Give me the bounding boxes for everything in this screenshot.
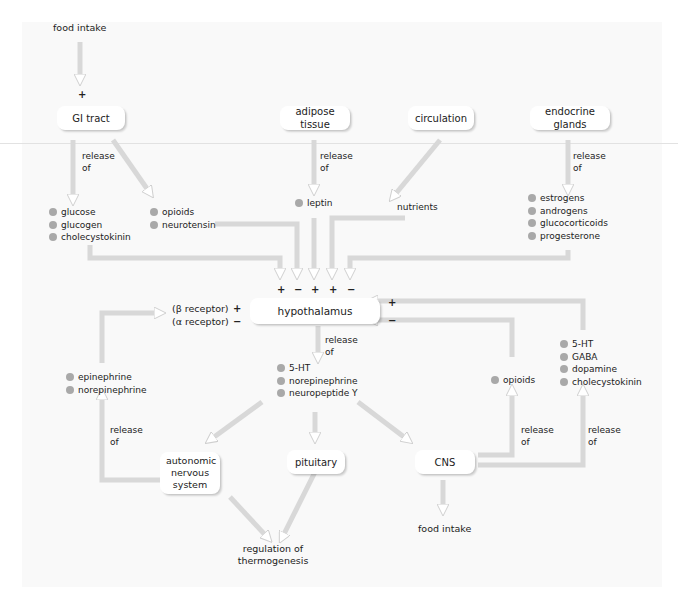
- bullet-icon: [560, 340, 568, 348]
- list-item: cholecystokinin: [560, 376, 642, 389]
- bullet-icon: [560, 353, 568, 361]
- gi-signal-list-a: glucose glucogen cholecystokinin: [49, 206, 131, 244]
- list-item: dopamine: [560, 363, 642, 376]
- release-label-endocrine: releaseof: [573, 150, 606, 174]
- node-hypothalamus[interactable]: hypothalamus: [250, 298, 380, 324]
- food-intake-input: food intake: [53, 22, 106, 34]
- list-item: leptin: [295, 197, 332, 210]
- list-item: estrogens: [528, 192, 608, 205]
- cns-output-list-b: 5-HT GABA dopamine cholecystokinin: [560, 338, 642, 388]
- bullet-icon: [528, 219, 536, 227]
- receptor-sign-plus: +: [233, 304, 241, 314]
- list-item: norepinephrine: [66, 384, 147, 397]
- hypothalamus-output-list: 5-HT norepinephrine neuropeptide Y: [277, 362, 358, 400]
- bullet-icon: [150, 221, 158, 229]
- bullet-icon: [528, 232, 536, 240]
- arrow-pit-thermo: [282, 472, 315, 538]
- bullet-icon: [528, 194, 536, 202]
- bullet-icon: [49, 208, 57, 216]
- bullet-icon: [150, 208, 158, 216]
- thermogenesis-label: regulation of thermogenesis: [233, 543, 313, 567]
- bullet-icon: [66, 373, 74, 381]
- list-item: opioids: [150, 206, 216, 219]
- node-autonomic-nervous-system[interactable]: autonomic nervous system: [160, 452, 220, 494]
- bullet-icon: [560, 378, 568, 386]
- bullet-icon: [560, 365, 568, 373]
- list-item: progesterone: [528, 230, 608, 243]
- bullet-icon: [49, 221, 57, 229]
- list-item: GABA: [560, 351, 642, 364]
- node-adipose-tissue[interactable]: adipose tissue: [280, 106, 350, 130]
- list-item: neuropeptide Y: [277, 387, 358, 400]
- arrow-nutrients-hyp: [332, 218, 405, 274]
- arrow-cns-opioids: [478, 390, 512, 455]
- bullet-icon: [295, 199, 303, 207]
- arrow-cck-hyp: [90, 245, 280, 274]
- bullet-icon: [277, 377, 285, 385]
- node-endocrine-glands[interactable]: endocrine glands: [530, 106, 610, 130]
- release-label-cns-b: releaseof: [588, 424, 621, 448]
- list-item: glucocorticoids: [528, 217, 608, 230]
- list-item: androgens: [528, 205, 608, 218]
- input-sign: −: [294, 285, 302, 295]
- input-sign: +: [329, 285, 337, 295]
- list-item: epinephrine: [66, 371, 147, 384]
- ans-output-list: epinephrine norepinephrine: [66, 371, 147, 396]
- arrow-circ-nutrients: [393, 140, 440, 197]
- arrow-prog-hyp: [350, 250, 568, 274]
- bullet-icon: [49, 233, 57, 241]
- right-sign-plus: +: [388, 298, 396, 308]
- arrow-neuro-hyp: [215, 224, 297, 274]
- release-label-cns-a: releaseof: [521, 424, 554, 448]
- list-item: neurotensin: [150, 219, 216, 232]
- node-gi-tract[interactable]: GI tract: [57, 106, 125, 130]
- arrow-out-ans: [210, 402, 262, 440]
- node-pituitary[interactable]: pituitary: [287, 450, 345, 474]
- cns-output-list-a: opioids: [491, 374, 535, 387]
- arrow-5ht-hyp: [372, 301, 583, 330]
- right-sign-minus: −: [388, 316, 396, 326]
- release-label-hypothalamus: releaseof: [325, 334, 358, 358]
- receptor-sign-minus: −: [233, 317, 241, 327]
- node-cns[interactable]: CNS: [415, 450, 475, 474]
- node-circulation[interactable]: circulation: [408, 106, 474, 130]
- gi-plus-sign: +: [78, 90, 86, 100]
- bullet-icon: [66, 386, 74, 394]
- release-label-adipose: releaseof: [320, 150, 353, 174]
- release-label-gi: releaseof: [82, 150, 115, 174]
- bullet-icon: [528, 207, 536, 215]
- list-item: norepinephrine: [277, 375, 358, 388]
- bullet-icon: [491, 376, 499, 384]
- list-item: glucogen: [49, 219, 131, 232]
- list-item: 5-HT: [560, 338, 642, 351]
- input-sign: −: [347, 285, 355, 295]
- gi-signal-list-b: opioids neurotensin: [150, 206, 216, 231]
- receptor-labels: (β receptor)(α receptor): [172, 302, 229, 328]
- input-sign: +: [311, 285, 319, 295]
- adipose-signal-list: leptin: [295, 197, 332, 210]
- arrow-epi-receptor: [102, 313, 160, 363]
- arrow-gi-opioids: [113, 140, 150, 193]
- arrow-out-cns: [358, 402, 408, 440]
- nutrients-label: nutrients: [397, 201, 438, 213]
- list-item: glucose: [49, 206, 131, 219]
- input-sign: +: [277, 285, 285, 295]
- arrow-ans-thermo: [230, 497, 268, 538]
- bullet-icon: [277, 364, 285, 372]
- release-label-ans: releaseof: [110, 424, 143, 448]
- bullet-icon: [277, 389, 285, 397]
- list-item: 5-HT: [277, 362, 358, 375]
- food-intake-output: food intake: [418, 523, 471, 535]
- endocrine-signal-list: estrogens androgens glucocorticoids prog…: [528, 192, 608, 242]
- list-item: cholecystokinin: [49, 231, 131, 244]
- list-item: opioids: [491, 374, 535, 387]
